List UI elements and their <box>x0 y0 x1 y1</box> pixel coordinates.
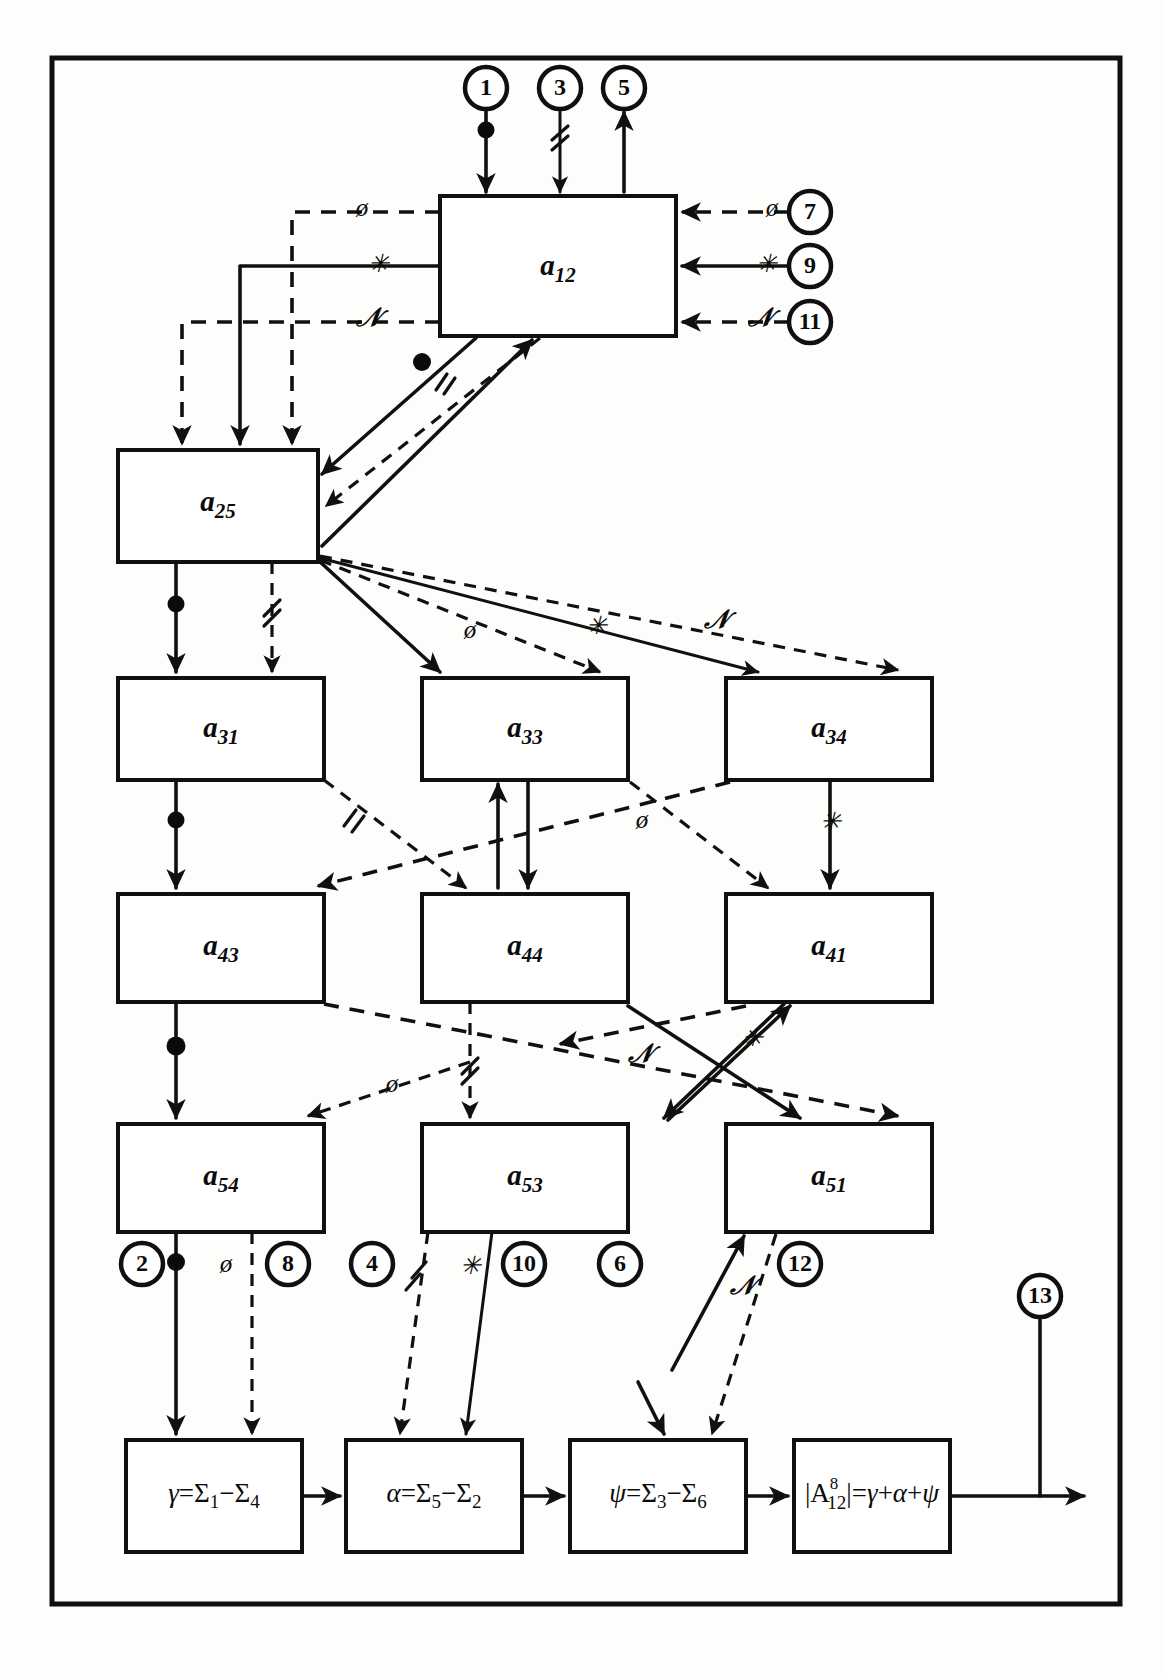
marker-scriptn-row4: 𝒩 <box>627 1039 661 1068</box>
edge-a25-to-a33-solid <box>318 560 440 672</box>
marker-phi-node7: ø <box>765 194 779 221</box>
edge-a25-to-a33-phi <box>320 560 600 672</box>
edge-a12-scriptn-to-a25 <box>182 322 440 444</box>
svg-text:7: 7 <box>804 198 816 224</box>
marker-phi-a54: ø <box>385 1070 399 1097</box>
svg-text:2: 2 <box>136 1250 148 1276</box>
block-result-label: |A812|=γ+α+ψ <box>805 1474 940 1513</box>
svg-text:3: 3 <box>554 74 566 100</box>
junction-dot-a12-a25 <box>413 353 431 371</box>
slash-marker-a12-a25-a <box>436 374 447 390</box>
edge-to-a41-phi <box>630 782 768 888</box>
svg-text:11: 11 <box>799 308 822 334</box>
slash-marker-a12-a25-b <box>444 378 455 394</box>
numbered-node-3[interactable]: 3 <box>539 67 581 109</box>
numbered-node-13[interactable]: 13 <box>1019 1275 1061 1317</box>
edge-a25-to-a12-return <box>322 340 532 546</box>
svg-text:6: 6 <box>614 1250 626 1276</box>
junction-dot-node1 <box>478 122 495 139</box>
marker-phi-left: ø <box>355 194 369 221</box>
marker-star-cross: ✳ <box>742 1024 765 1051</box>
svg-text:8: 8 <box>282 1250 294 1276</box>
marker-star-a34-a41: ✳ <box>820 808 843 835</box>
numbered-node-4[interactable]: 4 <box>351 1243 393 1285</box>
marker-star-node9: ✳ <box>756 250 779 277</box>
marker-star-a25-a34: ✳ <box>586 612 609 639</box>
junction-dot-a31-a43 <box>168 812 185 829</box>
diagram-canvas: a12 ø ✳ 𝒩 ø ✳ 𝒩 a25 ø ✳ 𝒩 a31 a33 a34 <box>0 0 1165 1673</box>
junction-dot-node2 <box>167 1253 185 1271</box>
edge-cross-up-to-a41 <box>668 1006 790 1120</box>
edge-a25-to-a34-star <box>320 558 758 672</box>
slash-marker-a31-a44-a <box>344 810 356 826</box>
numbered-node-11[interactable]: 11 <box>789 301 831 343</box>
signal-flow-diagram: a12 ø ✳ 𝒩 ø ✳ 𝒩 a25 ø ✳ 𝒩 a31 a33 a34 <box>0 0 1165 1673</box>
marker-scriptn-node11: 𝒩 <box>747 303 781 332</box>
edge-a41-to-a53-cross <box>664 1004 784 1118</box>
marker-star-left: ✳ <box>368 250 391 277</box>
marker-phi-a25-a33: ø <box>463 616 477 643</box>
slash-marker-a31-a44-b <box>352 816 364 832</box>
svg-text:12: 12 <box>788 1250 812 1276</box>
numbered-node-1[interactable]: 1 <box>465 67 507 109</box>
numbered-node-6[interactable]: 6 <box>599 1243 641 1285</box>
svg-text:5: 5 <box>618 74 630 100</box>
numbered-node-5[interactable]: 5 <box>603 67 645 109</box>
edge-node12-to-psi <box>712 1234 776 1434</box>
numbered-node-7[interactable]: 7 <box>789 191 831 233</box>
svg-text:1: 1 <box>480 74 492 100</box>
marker-phi-node8: ø <box>219 1250 233 1277</box>
edge-a34-to-a43-long <box>318 782 730 886</box>
numbered-node-9[interactable]: 9 <box>789 245 831 287</box>
numbered-node-10[interactable]: 10 <box>503 1243 545 1285</box>
numbered-node-8[interactable]: 8 <box>267 1243 309 1285</box>
numbered-node-12[interactable]: 12 <box>779 1243 821 1285</box>
junction-dot-a25-a31 <box>168 596 185 613</box>
edge-a12-star-to-a25 <box>240 266 440 444</box>
svg-text:9: 9 <box>804 252 816 278</box>
junction-dot-a43-a54 <box>167 1037 186 1056</box>
svg-text:13: 13 <box>1028 1282 1052 1308</box>
svg-text:4: 4 <box>366 1250 378 1276</box>
edge-a25-to-a34-scriptn <box>320 556 898 670</box>
marker-star-node10: ✳ <box>460 1252 483 1279</box>
edge-psi-feed <box>638 1382 664 1434</box>
marker-scriptn-a25-a34: 𝒩 <box>703 605 737 634</box>
edge-a31-to-a44-dashed <box>324 780 466 888</box>
svg-text:10: 10 <box>512 1250 536 1276</box>
edge-a43-to-a51-long <box>324 1004 898 1116</box>
marker-scriptn-left: 𝒩 <box>355 303 389 332</box>
numbered-node-2[interactable]: 2 <box>121 1243 163 1285</box>
edge-a41-scriptn-left <box>560 1006 746 1044</box>
marker-phi-a41: ø <box>635 806 649 833</box>
edge-node6-to-a51 <box>672 1236 744 1370</box>
